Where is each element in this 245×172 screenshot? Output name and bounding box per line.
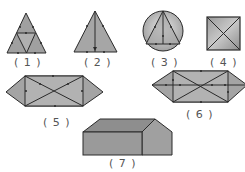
figure-canvas: ( 1 ) ( 2 ) ( 3 ) ( 4 ) (0, 0, 245, 172)
shape-1-label: ( 1 ) (14, 56, 42, 69)
shape-2-label: ( 2 ) (84, 56, 112, 69)
shape-1-subdivided-triangle (7, 13, 46, 54)
shape-2-triangle-with-median (74, 11, 117, 53)
shape-3-label: ( 3 ) (151, 56, 179, 69)
shape-7-house-prism (83, 119, 172, 155)
shape-5-hexagon (6, 75, 103, 107)
shape-3-inscribed-triangle (143, 11, 183, 51)
shape-4-square-diagonals (207, 17, 240, 50)
shape-4-label: ( 4 ) (210, 56, 238, 69)
shape-6-label: ( 6 ) (186, 108, 214, 121)
shape-6-hexagon (152, 70, 245, 103)
shape-5-label: ( 5 ) (43, 116, 71, 129)
shape-7-label: ( 7 ) (109, 157, 137, 170)
